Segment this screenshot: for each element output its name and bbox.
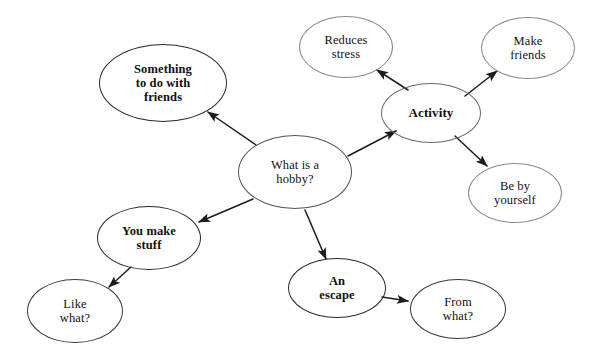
node-make-friends[interactable]: Make friends: [481, 17, 575, 79]
node-label-from-what: From what?: [439, 295, 477, 323]
edge-center-to-you-make-stuff: [199, 199, 253, 222]
node-label-center: What is a hobby?: [267, 158, 323, 186]
node-an-escape[interactable]: An escape: [288, 258, 386, 318]
edge-center-to-an-escape: [305, 210, 326, 259]
node-label-make-friends: Make friends: [506, 34, 549, 62]
edge-activity-to-be-by-yourself: [455, 136, 487, 166]
node-like-what[interactable]: Like what?: [27, 279, 123, 343]
edge-activity-to-make-friends: [465, 71, 497, 96]
node-label-you-make-stuff: You make stuff: [118, 224, 180, 252]
node-center[interactable]: What is a hobby?: [238, 135, 352, 209]
node-activity[interactable]: Activity: [381, 83, 481, 143]
node-something-friends[interactable]: Something to do with friends: [99, 44, 227, 122]
mind-map-canvas: What is a hobby?Something to do with fri…: [0, 0, 595, 361]
node-from-what[interactable]: From what?: [410, 279, 506, 339]
edge-center-to-activity: [348, 131, 396, 156]
node-label-activity: Activity: [405, 106, 458, 121]
node-be-by-yourself[interactable]: Be by yourself: [468, 163, 562, 223]
node-reduces-stress[interactable]: Reduces stress: [299, 16, 393, 78]
edge-an-escape-to-from-what: [382, 297, 408, 301]
node-you-make-stuff[interactable]: You make stuff: [97, 206, 201, 270]
node-label-something-friends: Something to do with friends: [130, 62, 196, 104]
edge-you-make-stuff-to-like-what: [109, 267, 131, 287]
node-label-reduces-stress: Reduces stress: [320, 33, 371, 61]
edge-center-to-something-friends: [208, 112, 256, 145]
node-label-like-what: Like what?: [56, 297, 94, 325]
node-label-be-by-yourself: Be by yourself: [490, 179, 540, 207]
node-label-an-escape: An escape: [315, 274, 358, 302]
